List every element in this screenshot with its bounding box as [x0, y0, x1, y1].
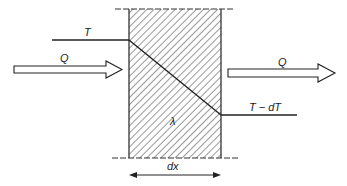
temp-out-label: T − dT [249, 101, 282, 113]
thickness-label: dx [167, 160, 179, 172]
heat-out-label: Q [278, 56, 287, 68]
wall-slab [129, 9, 221, 158]
temp-in-label: T [84, 26, 92, 38]
heat-conduction-diagram: T Q Q T − dT λ dx [0, 0, 347, 186]
conductivity-label: λ [169, 115, 175, 127]
heat-in-label: Q [60, 52, 69, 64]
thickness-dimension-arrow-icon [129, 172, 221, 178]
